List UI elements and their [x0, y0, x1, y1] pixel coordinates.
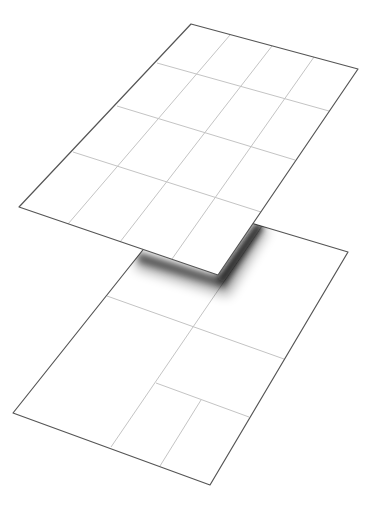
- layered-planes-diagram: Two stacked layers: uniform grid over su…: [0, 0, 371, 505]
- top-plane-surface: [19, 24, 358, 275]
- top-plane: [19, 24, 358, 275]
- diagram-canvas: [0, 0, 371, 505]
